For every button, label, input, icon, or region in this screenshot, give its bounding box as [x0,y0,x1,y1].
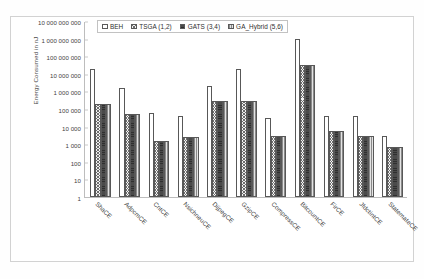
y-axis-tick-label: 10 000 000 [50,71,85,78]
legend-swatch-icon [180,24,186,30]
y-axis-tick-mark [85,110,88,111]
bar [398,147,403,197]
bar [193,137,198,197]
legend-swatch-icon [131,24,137,30]
legend-label: GA_Hybrid (5,6) [236,23,283,30]
y-axis-tick-mark [85,57,88,58]
legend-label: BEH [110,23,123,30]
x-axis-tick-label: ShaCE [94,200,113,219]
legend-item-beh[interactable]: BEH [102,23,123,30]
x-axis-label-cell: NsichneuCE [173,199,202,257]
y-axis-tick-mark [85,22,88,23]
x-axis-label-cell: DijpegCE [202,199,231,257]
legend-item-gats-3-4[interactable]: GATS (3,4) [180,23,220,30]
bar [281,136,286,197]
x-axis-label-cell: AdpcmCE [114,199,143,257]
y-axis-tick-label: 1 000 [66,142,86,149]
bar-group [320,22,349,197]
bar-group [290,22,319,197]
x-axis-label-cell: JfdctintCE [349,199,378,257]
bar-groups [86,22,407,197]
y-axis-tick-mark [85,39,88,40]
x-axis-label-cell: BitcountCE [291,199,320,257]
legend-item-tsga-1-2[interactable]: TSGA (1,2) [131,23,171,30]
bar [368,136,373,197]
legend-label: GATS (3,4) [188,23,220,30]
y-axis-tick-mark [85,74,88,75]
y-axis-tick-label: 100 000 [59,107,85,114]
y-axis-tick-mark [85,162,88,163]
chart-container: Energy Consumed in nJ BEHTSGA (1,2)GATS … [0,0,424,279]
y-axis-title: Energy Consumed in nJ [32,11,39,131]
chart-plot-frame: Energy Consumed in nJ BEHTSGA (1,2)GATS … [10,16,414,262]
bar-group [261,22,290,197]
x-axis-label-cell: CompressCE [261,199,290,257]
bar [223,101,228,197]
x-axis-label-cell: FirCE [320,199,349,257]
bar-group [232,22,261,197]
legend-swatch-icon [228,24,234,30]
y-axis-tick-mark [85,145,88,146]
bar-group [144,22,173,197]
bar [106,104,111,197]
y-axis-tick-label: 10 [74,177,85,184]
x-axis-label-cell: StatemateCE [379,199,408,257]
x-axis-label-cell: ShaCE [85,199,114,257]
y-axis-tick-mark [85,92,88,93]
bar-group [115,22,144,197]
x-axis-label-cell: CntCE [144,199,173,257]
bar-group [86,22,115,197]
y-axis-tick-mark [85,127,88,128]
x-axis-labels: ShaCEAdpcmCECntCENsichneuCEDijpegCEGzipC… [85,199,408,257]
y-axis-tick-label: 1 [78,195,85,202]
y-axis-tick-label: 1 000 000 000 [41,36,85,43]
x-axis-label-cell: GzipCE [232,199,261,257]
chart-legend: BEHTSGA (1,2)GATS (3,4)GA_Hybrid (5,6) [97,20,288,33]
plot-area: 10 000 000 0001 000 000 000100 000 00010… [84,22,407,198]
legend-label: TSGA (1,2) [139,23,171,30]
x-axis-tick-label: FirCE [329,200,346,217]
bar [164,141,169,197]
y-axis-tick-label: 10 000 [62,124,85,131]
bar-group [174,22,203,197]
bar [135,114,140,197]
bar [252,101,257,197]
y-axis-tick-label: 1 000 000 [53,89,85,96]
bar-group [203,22,232,197]
y-axis-tick-label: 100 [71,159,85,166]
x-axis-tick-label: CntCE [153,200,171,218]
x-axis-tick-label: StatemateCE [388,200,420,232]
x-axis-tick-label: GzipCE [241,200,262,221]
legend-item-ga-hybrid-5-6[interactable]: GA_Hybrid (5,6) [228,23,283,30]
y-axis-tick-label: 10 000 000 000 [38,19,85,26]
legend-swatch-icon [102,24,108,30]
y-axis-tick-label: 100 000 000 [47,54,85,61]
bar-group [378,22,407,197]
y-axis-tick-mark [85,180,88,181]
bar [310,65,315,197]
bar [339,131,344,197]
bar-group [349,22,378,197]
